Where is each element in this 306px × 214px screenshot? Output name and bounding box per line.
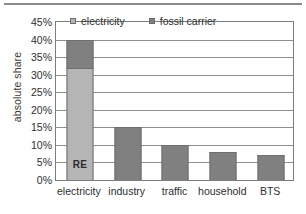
legend-square-marker (149, 18, 155, 24)
x-axis-tick-household: household (198, 185, 246, 197)
x-axis-tick-industry: industry (108, 185, 145, 197)
bar-segment-fossil-carrier[interactable] (162, 145, 189, 180)
bar-industry[interactable] (114, 127, 141, 180)
legend-square-marker (70, 18, 76, 24)
y-axis-tick-0pct: 0% (16, 174, 52, 186)
bar-slot-household (199, 22, 247, 180)
y-axis-tick-5pct: 5% (16, 156, 52, 168)
x-axis-tick-traffic: traffic (162, 185, 187, 197)
y-axis-tick-20pct: 20% (16, 104, 52, 116)
bar-household[interactable] (210, 152, 237, 180)
x-axis-tick-electricity: electricity (57, 185, 101, 197)
y-axis-tick-15pct: 15% (16, 121, 52, 133)
y-axis-tick-40pct: 40% (16, 34, 52, 46)
x-axis-tick-labels: electricityindustrytraffichouseholdBTS (55, 185, 294, 205)
legend-label: fossil carrier (160, 15, 217, 27)
bar-electricity[interactable]: RE (66, 40, 93, 180)
bar-segment-fossil-carrier[interactable] (114, 127, 141, 180)
bar-segment-electricity[interactable]: RE (66, 68, 93, 180)
bar-segment-fossil-carrier[interactable] (210, 152, 237, 180)
legend-item-electricity[interactable]: electricity (70, 15, 125, 27)
bar-traffic[interactable] (162, 145, 189, 180)
bar-slot-bts (247, 22, 295, 180)
plot-area: RE (55, 21, 294, 181)
legend-label: electricity (81, 15, 125, 27)
y-axis-tick-45pct: 45% (16, 16, 52, 28)
y-axis-tick-labels: 0%5%10%15%20%25%30%35%40%45% (16, 21, 52, 181)
bar-slot-traffic (152, 22, 200, 180)
chart-legend: electricityfossil carrier (70, 15, 216, 27)
y-axis-tick-25pct: 25% (16, 86, 52, 98)
x-axis-tick-bts: BTS (260, 185, 280, 197)
bar-annotation-re: RE (67, 159, 92, 170)
y-axis-tick-35pct: 35% (16, 51, 52, 63)
top-divider-rule (4, 3, 302, 5)
bar-segment-fossil-carrier[interactable] (258, 155, 285, 180)
y-axis-tick-10pct: 10% (16, 139, 52, 151)
bar-series-group: RE (56, 22, 293, 180)
chart-figure: absolute share 0%5%10%15%20%25%30%35%40%… (0, 9, 306, 214)
y-axis-tick-30pct: 30% (16, 69, 52, 81)
bar-bts[interactable] (258, 155, 285, 180)
bar-slot-electricity: RE (56, 22, 104, 180)
bar-segment-fossil-carrier[interactable] (66, 40, 93, 68)
legend-item-fossil-carrier[interactable]: fossil carrier (149, 15, 217, 27)
bar-slot-industry (104, 22, 152, 180)
